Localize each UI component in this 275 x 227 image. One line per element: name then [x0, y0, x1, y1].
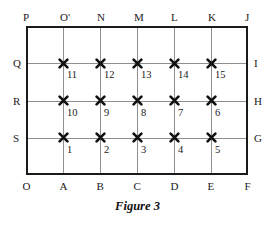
vertex-label-b: B: [97, 181, 104, 192]
vertex-label-g: G: [254, 133, 262, 144]
vertex-label-f: F: [245, 181, 251, 192]
vertex-label-l: L: [171, 12, 178, 23]
point-number-label: 3: [141, 145, 146, 156]
vertex-label-h: H: [254, 96, 262, 107]
figure-container: 111213141510987612345 PO'NMLKJ OABCDEF Q…: [0, 0, 275, 227]
vertex-label-o-prime: O': [60, 12, 70, 23]
vertex-label-j: J: [245, 12, 249, 23]
point-number-label: 11: [67, 70, 77, 81]
point-number-label: 7: [178, 108, 183, 119]
vertex-label-c: C: [134, 181, 141, 192]
vertex-label-m: M: [134, 12, 144, 23]
point-number-label: 15: [215, 70, 226, 81]
point-number-label: 1: [67, 145, 72, 156]
point-number-label: 13: [141, 70, 152, 81]
vertex-label-n: N: [97, 12, 105, 23]
point-number-label: 6: [215, 108, 220, 119]
point-number-label: 14: [178, 70, 189, 81]
vertex-label-a: A: [60, 181, 68, 192]
point-number-label: 5: [215, 145, 220, 156]
figure-caption: Figure 3: [0, 199, 275, 214]
vertex-label-q: Q: [13, 58, 21, 69]
vertex-label-i: I: [254, 58, 258, 69]
vertex-label-p: P: [23, 12, 29, 23]
vertex-label-r: R: [13, 96, 20, 107]
vertex-label-k: K: [208, 12, 216, 23]
point-number-label: 8: [141, 108, 146, 119]
vertex-label-e: E: [208, 181, 215, 192]
point-number-label: 9: [104, 108, 109, 119]
point-number-label: 12: [104, 70, 115, 81]
vertex-label-o: O: [23, 181, 31, 192]
vertex-label-s: S: [13, 133, 19, 144]
vertex-label-d: D: [171, 181, 179, 192]
point-number-label: 2: [104, 145, 109, 156]
point-number-label: 4: [178, 145, 183, 156]
point-number-label: 10: [67, 108, 78, 119]
